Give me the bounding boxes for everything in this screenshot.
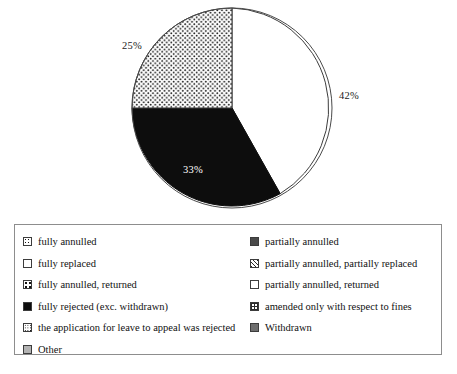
legend-swatch-icon [23,302,32,311]
legend-item-label: amended only with respect to fines [265,301,412,312]
pie-chart-area: 42% 25% 33% [0,0,457,218]
legend-item: Other [23,339,251,361]
pie-label-42: 42% [339,90,359,101]
legend-item: the application for leave to appeal was … [23,317,251,339]
pie-label-33: 33% [183,164,203,175]
legend-item: fully annulled, returned [23,274,251,296]
pie-slice-dotted [132,8,232,108]
legend-swatch-icon [250,237,259,246]
legend-item: amended only with respect to fines [250,296,440,318]
legend-swatch-icon [23,280,32,289]
legend-item: partially annulled, partially replaced [250,253,440,275]
legend-swatch-icon [23,259,32,268]
legend-item: fully annulled [23,231,251,253]
legend-item-label: partially annulled, returned [265,279,379,290]
legend-swatch-icon [250,302,259,311]
legend-item-label: fully annulled [38,236,97,247]
pie-chart-svg [0,0,457,218]
legend-item: partially annulled [250,231,440,253]
legend-column-right: partially annulled partially annulled, p… [250,231,440,339]
legend-item: fully replaced [23,253,251,275]
legend-item-label: partially annulled, partially replaced [265,258,417,269]
legend-swatch-icon [23,323,32,332]
legend-box: fully annulled fully replaced fully annu… [14,224,442,355]
legend-item-label: fully annulled, returned [38,279,137,290]
legend-swatch-icon [23,237,32,246]
legend-swatch-icon [23,345,32,354]
legend-item: partially annulled, returned [250,274,440,296]
pie-label-25: 25% [122,40,142,51]
legend-column-left: fully annulled fully replaced fully annu… [23,231,251,360]
legend-item-label: the application for leave to appeal was … [38,322,235,333]
legend-swatch-icon [250,259,259,268]
legend-item-label: fully replaced [38,258,96,269]
legend-item-label: fully rejected (exc. withdrawn) [38,301,168,312]
legend-item-label: Other [38,344,62,355]
legend-item-label: Withdrawn [265,322,312,333]
legend-item: fully rejected (exc. withdrawn) [23,296,251,318]
legend-item-label: partially annulled [265,236,339,247]
legend-swatch-icon [250,280,259,289]
legend-swatch-icon [250,323,259,332]
legend-item: Withdrawn [250,317,440,339]
